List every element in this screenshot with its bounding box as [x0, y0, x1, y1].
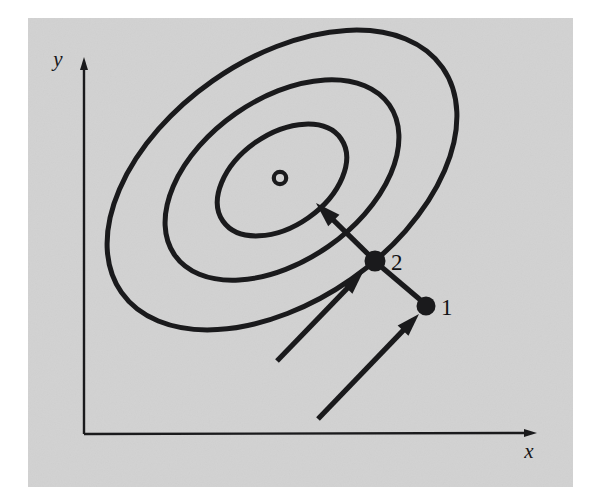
iterate-point-2	[365, 251, 386, 272]
x-axis-label: x	[523, 439, 534, 463]
y-axis-label: y	[51, 47, 63, 71]
figure-container: y x 1 2	[0, 0, 598, 503]
point-label-1: 1	[441, 295, 453, 320]
contour-descent-figure: y x 1 2	[0, 0, 598, 503]
point-label-2: 2	[391, 250, 403, 275]
x-axis-line	[84, 433, 526, 434]
iterate-point-1	[417, 297, 436, 316]
